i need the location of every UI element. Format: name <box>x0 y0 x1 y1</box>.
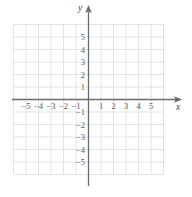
y-tick-label: 3 <box>81 57 85 67</box>
y-tick-label: −5 <box>76 157 85 167</box>
x-tick-label: −2 <box>59 101 68 111</box>
x-axis-label: x <box>175 102 181 112</box>
y-tick-label: 5 <box>81 32 85 42</box>
y-tick-label: 1 <box>81 82 85 92</box>
x-tick-label: 4 <box>136 101 141 111</box>
coordinate-plane-figure: −5−4−3−2−112345 −5−4−3−2−112345 x y <box>0 0 192 197</box>
x-tick-label: 3 <box>124 101 128 111</box>
axis-lines <box>12 5 182 186</box>
y-tick-label: −2 <box>76 120 85 130</box>
y-tick-label: −4 <box>76 145 86 155</box>
y-tick-label: −3 <box>76 132 85 142</box>
x-tick-label: −5 <box>21 101 30 111</box>
x-tick-label: 2 <box>111 101 115 111</box>
x-tick-labels: −5−4−3−2−112345 <box>21 101 153 111</box>
x-tick-label: −3 <box>46 101 55 111</box>
y-axis-label: y <box>77 3 83 13</box>
x-tick-label: 5 <box>149 101 153 111</box>
x-tick-label: −4 <box>34 101 44 111</box>
y-tick-label: −1 <box>76 107 85 117</box>
x-tick-label: 1 <box>99 101 103 111</box>
coordinate-plane-svg: −5−4−3−2−112345 −5−4−3−2−112345 x y <box>0 0 192 197</box>
y-axis-arrowhead <box>85 5 92 13</box>
y-tick-label: 2 <box>81 70 85 80</box>
